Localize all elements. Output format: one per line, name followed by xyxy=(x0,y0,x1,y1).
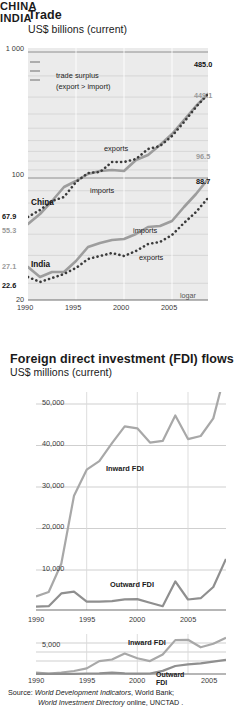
fdi-china-ytick-10000: 10,000 xyxy=(42,564,64,573)
trade-surplus-note-line1: trade surplus xyxy=(56,71,99,81)
trade-ytick-1000: 1 000 xyxy=(0,44,24,53)
trade-chart-svg xyxy=(28,48,208,310)
fdi-india-xtick-1995: 1995 xyxy=(79,676,95,685)
fdi-subtitle: US$ millions (current) xyxy=(10,366,236,378)
china-imports-label: imports xyxy=(90,186,114,195)
fdi-china-ytick-40000: 40,000 xyxy=(42,439,64,448)
source-rest-1: , World Bank; xyxy=(131,688,174,697)
trade-china-label: China xyxy=(31,198,54,207)
china-exports-label: exports xyxy=(104,144,128,153)
india-exports-label: exports xyxy=(139,253,163,262)
source-italic-1: World Development Indicators xyxy=(35,688,131,697)
trade-xtick-2005: 2005 xyxy=(161,303,177,312)
fdi-china-xtick-2000: 2000 xyxy=(129,615,145,624)
india-exports-end-value: 88.7 xyxy=(196,177,210,186)
fdi-china-ytick-50000: 50,000 xyxy=(42,398,64,407)
china-imports-end-value: 449.1 xyxy=(194,91,212,100)
china-exports-end-value: 485.0 xyxy=(194,60,212,69)
source-note: Source: World Development Indicators, Wo… xyxy=(8,688,232,707)
china-exports-start-value: 67.9 xyxy=(2,212,16,221)
trade-xtick-1990: 1990 xyxy=(17,303,33,312)
fdi-china-xtick-2005: 2005 xyxy=(180,615,196,624)
fdi-india-outward-label-line2: FDI xyxy=(156,679,167,686)
fdi-india-xtick-2005: 2005 xyxy=(201,676,217,685)
fdi-china-xtick-1995: 1995 xyxy=(79,615,95,624)
india-imports-end-value: 96.5 xyxy=(196,152,210,161)
source-line-2: World Investment Directory online, UNCTA… xyxy=(8,698,232,708)
trade-plot-bg xyxy=(28,48,208,300)
trade-log-scale-note: logar xyxy=(180,291,196,300)
trade-xtick-1995: 1995 xyxy=(65,303,81,312)
fdi-india-inward-label: Inward FDI xyxy=(128,638,166,647)
fdi-china-ytick-30000: 30,000 xyxy=(42,481,64,490)
fdi-china-inward-label: Inward FDI xyxy=(106,464,144,473)
source-italic-2: World Investment Directory xyxy=(38,698,125,707)
fdi-china-outward-label: Outward FDI xyxy=(110,580,154,589)
india-imports-start-value: 27.1 xyxy=(2,262,16,271)
india-exports-start-value: 22.6 xyxy=(2,281,16,290)
trade-chart xyxy=(28,48,208,310)
fdi-china-xtick-1990: 1990 xyxy=(28,615,44,624)
trade-ytick-100: 100 xyxy=(0,170,24,179)
trade-xtick-2000: 2000 xyxy=(113,303,129,312)
fdi-header: Foreign direct investment (FDI) flows US… xyxy=(10,352,236,378)
trade-header: Trade US$ billions (current) xyxy=(28,8,236,35)
china-imports-start-value: 55.3 xyxy=(2,226,16,235)
trade-subtitle: US$ billions (current) xyxy=(28,23,236,35)
fdi-india-xtick-1990: 1990 xyxy=(28,676,44,685)
source-rest-2: online, UNCTAD . xyxy=(125,698,184,707)
source-prefix: Source: xyxy=(8,688,33,697)
fdi-china-ytick-20000: 20,000 xyxy=(42,522,64,531)
trade-title: Trade xyxy=(28,8,236,22)
fdi-india-xtick-2000: 2000 xyxy=(129,676,145,685)
fdi-title: Foreign direct investment (FDI) flows xyxy=(10,352,236,366)
trade-india-label: India xyxy=(31,260,50,269)
trade-surplus-note-line2: (export > import) xyxy=(56,82,110,92)
fdi-india-outward-label-line1: Outward xyxy=(156,671,184,678)
fdi-india-ytick-5000: 5,000 xyxy=(42,640,60,649)
india-imports-label: imports xyxy=(133,226,157,235)
